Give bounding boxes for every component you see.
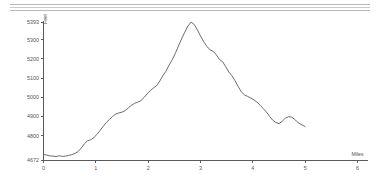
x-axis-tick-label: 2: [147, 165, 150, 171]
x-axis-title: Miles: [351, 151, 364, 157]
y-axis-tick-label: 4672: [27, 157, 39, 163]
y-axis-tick-label: 5393: [27, 19, 39, 25]
y-axis-tick-label: 5000: [27, 94, 39, 100]
x-axis-tick-label: 3: [199, 165, 202, 171]
elevation-profile-figure: 46724800490050005100520053005393 0123456…: [0, 0, 380, 190]
x-axis-tick-label: 6: [356, 165, 359, 171]
y-axis-tick-label: 4900: [27, 113, 39, 119]
horizontal-rule-band: [10, 4, 370, 13]
y-axis-title: Feet: [42, 14, 48, 24]
y-axis-tick-label: 5100: [27, 75, 39, 81]
rule-line-bottom: [10, 10, 370, 11]
elevation-chart: 46724800490050005100520053005393 0123456…: [0, 14, 380, 190]
elevation-chart-svg: 46724800490050005100520053005393 0123456…: [0, 14, 380, 190]
y-axis-tick-labels: 46724800490050005100520053005393: [27, 19, 39, 163]
y-axis-tick-label: 4800: [27, 133, 39, 139]
y-axis-tick-label: 5200: [27, 56, 39, 62]
elevation-line-series: [44, 22, 306, 157]
x-axis-tick-label: 4: [251, 165, 254, 171]
y-axis-tick-label: 5300: [27, 37, 39, 43]
x-axis-tick-labels: 0123456: [42, 165, 359, 171]
x-axis-tick-label: 5: [304, 165, 307, 171]
x-axis-tick-label: 1: [94, 165, 97, 171]
x-axis-tick-label: 0: [42, 165, 45, 171]
rule-line-top: [10, 4, 370, 5]
rule-line-middle: [10, 7, 370, 8]
